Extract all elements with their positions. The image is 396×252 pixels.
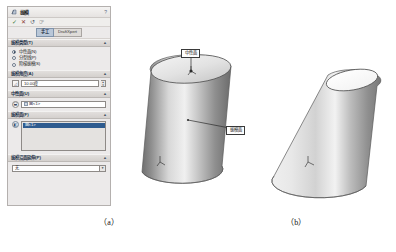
stepper-down-icon: ▼ <box>101 84 105 87</box>
panel-header: 拔模 ? <box>8 7 110 18</box>
radio-dot-icon <box>12 50 16 54</box>
help-icon[interactable]: ? <box>104 10 107 15</box>
face-propagation-select[interactable]: 无 <box>12 165 100 172</box>
preview-button[interactable]: ☞ <box>39 19 44 25</box>
section-title-neutral-plane: 中性面(U) <box>11 92 29 96</box>
section-header-draft-faces[interactable]: 拔模面(F) ▲ <box>8 111 110 119</box>
radio-label-neutral-plane: 中性面(N) <box>19 50 37 54</box>
radio-parting-line[interactable]: 分型线(P) <box>12 56 106 60</box>
section-header-draft-angle[interactable]: 拔模角度(A) ▲ <box>8 70 110 78</box>
section-header-face-propagation[interactable]: 拔模沿面延伸(P) ▲ <box>8 154 110 162</box>
section-body-neutral-plane: ⬓ 面<1> <box>8 98 110 111</box>
radio-label-parting-line: 分型线(P) <box>19 56 37 60</box>
section-header-neutral-plane[interactable]: 中性面(U) ▲ <box>8 90 110 98</box>
section-title-face-propagation: 拔模沿面延伸(P) <box>11 156 41 160</box>
neutral-plane-picker-icon[interactable]: ⬓ <box>12 101 19 108</box>
confirm-button[interactable]: ✓ <box>12 19 17 25</box>
chevron-up-icon: ▲ <box>103 41 107 45</box>
tab-manual[interactable]: 手工 <box>36 28 54 37</box>
neutral-plane-callout: 中性面 <box>181 49 200 58</box>
undo-button[interactable]: ↺ <box>30 19 35 25</box>
section-header-draft-type[interactable]: 拔模类型(T) ▲ <box>8 39 110 47</box>
chevron-down-icon[interactable]: ▼ <box>100 165 106 172</box>
section-title-draft-angle: 拔模角度(A) <box>11 72 33 76</box>
radio-label-step-draft: 阶梯拔模(S) <box>19 62 41 66</box>
panel-toolbar: ✓ ✕ ↺ ☞ <box>8 18 110 27</box>
chevron-up-icon: ▲ <box>103 113 107 117</box>
face-chip-icon <box>24 102 28 106</box>
angle-icon: ◿ <box>12 80 19 87</box>
draft-faces-listbox[interactable]: 面<1> <box>21 121 106 151</box>
list-item[interactable]: 面<1> <box>23 123 105 129</box>
section-body-draft-faces: ◧ 面<1> <box>8 119 110 155</box>
chevron-up-icon: ▲ <box>103 156 107 160</box>
section-body-draft-type: 中性面(N) 分型线(P) 阶梯拔模(S) <box>8 47 110 70</box>
section-title-draft-type: 拔模类型(T) <box>11 41 33 45</box>
caption-a: （a） <box>99 216 119 227</box>
neutral-plane-chip-label: 面<1> <box>29 102 40 106</box>
section-title-draft-faces: 拔模面(F) <box>11 113 29 117</box>
cancel-button[interactable]: ✕ <box>21 19 26 25</box>
section-body-draft-angle: ◿ 10.00度 ▲ ▼ <box>8 78 110 91</box>
draft-angle-stepper[interactable]: ▲ ▼ <box>101 80 106 87</box>
radio-dot-icon <box>12 56 16 60</box>
chevron-up-icon: ▲ <box>103 92 107 96</box>
panel-title: 拔模 <box>20 10 30 15</box>
radio-step-draft[interactable]: 阶梯拔模(S) <box>12 62 106 66</box>
tab-draftxpert[interactable]: DraftXpert <box>54 28 82 37</box>
draft-face-picker-icon[interactable]: ◧ <box>12 121 19 128</box>
neutral-plane-selection[interactable]: 面<1> <box>21 101 106 108</box>
chevron-up-icon: ▲ <box>103 72 107 76</box>
draft-feature-icon <box>11 9 17 15</box>
caption-b: （b） <box>286 216 307 227</box>
screenshot-root: 拔模 ? ✓ ✕ ↺ ☞ 手工 DraftXpert 拔模类型(T) ▲ 中性面… <box>0 0 396 252</box>
draft-property-manager: 拔模 ? ✓ ✕ ↺ ☞ 手工 DraftXpert 拔模类型(T) ▲ 中性面… <box>7 6 111 206</box>
draft-angle-input[interactable]: 10.00度 <box>21 80 99 87</box>
drafted-cone-model <box>268 58 386 218</box>
radio-neutral-plane[interactable]: 中性面(N) <box>12 50 106 54</box>
panel-tabs: 手工 DraftXpert <box>8 27 110 39</box>
draft-face-callout: 拔模面 <box>226 126 245 135</box>
section-body-face-propagation: 无 ▼ <box>8 162 110 175</box>
radio-dot-icon <box>12 63 16 67</box>
